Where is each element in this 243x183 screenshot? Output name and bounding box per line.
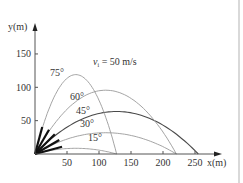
y-tick-label: 50 [21,115,31,126]
y-tick-label: 150 [16,48,31,59]
x-tick-label: 150 [124,157,139,168]
speed-annotation: vi = 50 m/s [93,56,137,68]
x-tick-label: 250 [188,157,203,168]
x-axis-arrow-icon [214,152,222,157]
trajectory-60 [35,90,176,154]
y-tick-label: 100 [16,82,31,93]
y-axis-arrow-icon [33,23,38,31]
angle-label-30: 30° [80,118,94,129]
angle-label-75: 75° [50,67,64,78]
x-tick-label: 100 [92,157,107,168]
x-tick-label: 200 [156,157,171,168]
angle-label-60: 60° [70,91,84,102]
trajectory-curves [35,75,198,154]
trajectory-30 [35,133,176,154]
y-axis-label: y(m) [8,21,27,33]
angle-label-15: 15° [88,132,102,143]
trajectory-chart: 5010015020025050100150 y(m) x(m) vi = 50… [0,0,243,183]
page-edge-divider [238,0,240,183]
angle-label-45: 45° [76,105,90,116]
axes [33,23,223,157]
angle-labels: 15°30°45°60°75° [50,67,102,143]
x-tick-label: 50 [62,157,72,168]
x-axis-label: x(m) [207,157,226,169]
velocity-arrows [35,127,62,154]
